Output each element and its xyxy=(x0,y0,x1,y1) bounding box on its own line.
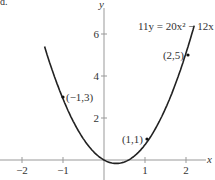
y-tick-label: 6 xyxy=(94,28,100,40)
point-label: (2,5) xyxy=(163,49,184,62)
data-point xyxy=(145,137,148,140)
data-point xyxy=(61,95,64,98)
x-tick-label: 1 xyxy=(142,164,148,176)
point-label: (−1,3) xyxy=(66,91,94,104)
x-tick-label: −2 xyxy=(16,164,28,176)
y-tick-label: 2 xyxy=(94,112,100,124)
x-axis-label: x xyxy=(206,153,212,165)
x-tick-label: −1 xyxy=(57,164,69,176)
equation-label: 11y = 20x² − 12x xyxy=(138,20,214,32)
y-axis-label: y xyxy=(98,0,104,10)
y-tick-label: 4 xyxy=(94,70,100,82)
point-label: (1,1) xyxy=(122,133,143,146)
data-point xyxy=(186,53,189,56)
x-tick-label: 2 xyxy=(183,164,189,176)
parabola-chart: x y −2−112246 (−1,3)(1,1)(2,5) 11y = 20x… xyxy=(0,0,215,180)
